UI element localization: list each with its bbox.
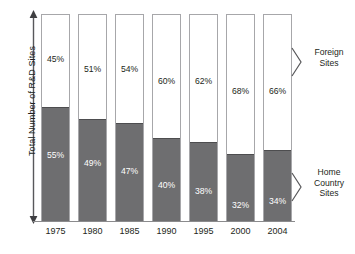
value-label-home-1975: 55%: [41, 150, 70, 160]
value-label-home-1985: 47%: [115, 166, 144, 176]
bar-2004: [263, 14, 292, 222]
value-label-foreign-1990: 60%: [152, 76, 181, 86]
x-axis-tick-label-1980: 1980: [73, 226, 113, 236]
x-axis-tick-label-1985: 1985: [110, 226, 150, 236]
x-axis-line: [33, 221, 295, 222]
value-label-home-2000: 32%: [226, 200, 255, 210]
home-country-sites-brace-icon: [291, 172, 302, 202]
foreign-sites-brace-icon: [291, 47, 302, 77]
rd-sites-stacked-bar-chart: Total Number of R&D Sites 45%55%51%49%54…: [0, 0, 355, 254]
bar-1975: [41, 14, 70, 222]
foreign-sites-label: Foreign Sites: [305, 47, 353, 68]
x-axis-tick-label-1975: 1975: [36, 226, 76, 236]
value-label-home-2004: 34%: [263, 196, 292, 206]
bar-1980: [78, 14, 107, 222]
x-axis-tick-label-2004: 2004: [258, 226, 298, 236]
value-label-home-1995: 38%: [189, 186, 218, 196]
value-label-foreign-2004: 66%: [263, 86, 292, 96]
value-label-home-1980: 49%: [78, 158, 107, 168]
plot-area: 45%55%51%49%54%47%60%40%62%38%68%32%66%3…: [41, 14, 294, 222]
bar-1985: [115, 14, 144, 222]
bar-segment-home-1995: [190, 142, 217, 221]
value-label-home-1990: 40%: [152, 180, 181, 190]
x-axis-tick-label-1995: 1995: [184, 226, 224, 236]
bar-segment-home-1980: [79, 119, 106, 221]
x-axis-tick-label-1990: 1990: [147, 226, 187, 236]
home-country-sites-label: Home Country Sites: [305, 167, 353, 199]
value-label-foreign-1980: 51%: [78, 64, 107, 74]
bar-segment-home-2000: [227, 154, 254, 221]
bar-segment-home-2004: [264, 150, 291, 221]
value-label-foreign-1975: 45%: [41, 54, 70, 64]
value-label-foreign-1995: 62%: [189, 76, 218, 86]
y-axis-title: Total Number of R&D Sites: [27, 11, 37, 191]
bar-2000: [226, 14, 255, 222]
value-label-foreign-1985: 54%: [115, 64, 144, 74]
x-axis-tick-label-2000: 2000: [221, 226, 261, 236]
bar-1990: [152, 14, 181, 222]
value-label-foreign-2000: 68%: [226, 86, 255, 96]
bar-segment-home-1975: [42, 107, 69, 221]
